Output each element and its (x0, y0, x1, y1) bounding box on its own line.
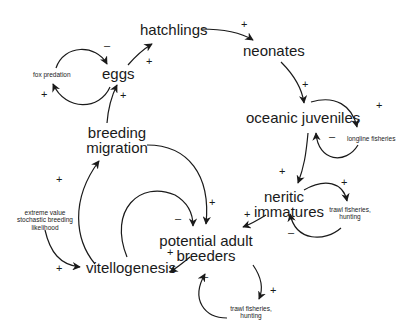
arrow-eggs-to-fox (53, 84, 110, 105)
trawl-adult-line2: hunting (226, 312, 276, 319)
arrow-oceanic-to-neritic (298, 133, 308, 183)
causal-loop-diagram: eggs hatchlings neonates oceanic juvenil… (0, 0, 410, 331)
sign-breeders-to-vitello: + (167, 246, 173, 258)
node-migration-line1: breeding (84, 125, 150, 140)
arrow-neonates-to-oceanic (281, 62, 304, 103)
trawl-adult-line1: trawl fisheries, (226, 305, 276, 312)
node-neritic-immatures: neritic immatures (254, 189, 314, 219)
sign-extreme-to-vitello: + (56, 262, 62, 274)
node-neonates: neonates (243, 43, 305, 58)
node-oceanic-juveniles: oceanic juveniles (246, 110, 360, 125)
sign-neonates-to-oceanic: + (302, 78, 308, 90)
node-breeders-line1: potential adult (146, 233, 266, 248)
node-neritic-line2: immatures (254, 204, 314, 219)
arrow-fox-to-eggs (56, 49, 107, 68)
node-trawl-adult: trawl fisheries, hunting (226, 305, 276, 320)
sign-vitello-to-breeders: – (175, 212, 181, 224)
sign-longline-to-oceanic: – (329, 130, 335, 142)
sign-breeders-to-trawl: + (270, 284, 276, 296)
trawl-neritic-line1: trawl fisheries, (325, 206, 375, 213)
node-eggs: eggs (102, 66, 135, 81)
arrow-vitello-to-migration (79, 161, 99, 264)
arrow-extreme-to-vitello (45, 230, 80, 267)
sign-neritic-to-trawl: + (341, 176, 347, 188)
arrow-breeders-to-trawl (253, 265, 261, 299)
node-longline-fisheries: longline fisheries (347, 135, 395, 142)
sign-oceanic-to-longline: + (376, 99, 382, 111)
sign-oceanic-to-neritic: + (279, 165, 285, 177)
node-vitellogenesis: vitellogenesis (86, 260, 176, 275)
sign-neritic-to-breeders: + (244, 208, 250, 220)
trawl-neritic-line2: hunting (325, 213, 375, 220)
sign-hatchlings-to-neonates: + (241, 18, 247, 30)
sign-eggs-to-fox: + (41, 88, 47, 100)
node-extreme-value: extreme value stochastic breeding likeli… (14, 209, 76, 231)
node-migration-line2: migration (84, 140, 150, 155)
extreme-line2: stochastic breeding (14, 216, 76, 223)
extreme-line1: extreme value (14, 209, 76, 216)
sign-trawl-to-neritic: – (288, 226, 294, 238)
node-trawl-neritic: trawl fisheries, hunting (325, 206, 375, 221)
node-breeding-migration: breeding migration (84, 125, 150, 155)
node-hatchlings: hatchlings (140, 22, 208, 37)
sign-migration-to-eggs: + (120, 89, 126, 101)
arrow-hatchlings-to-neonates (201, 29, 253, 40)
extreme-line3: likelihood (14, 224, 76, 231)
sign-migration-to-breeders: + (209, 196, 215, 208)
sign-fox-to-eggs: – (104, 39, 110, 51)
sign-eggs-to-hatchlings: + (146, 55, 152, 67)
node-neritic-line1: neritic (254, 189, 314, 204)
node-fox-predation: fox predation (33, 71, 71, 78)
sign-trawl-to-breeders: – (202, 270, 208, 282)
sign-vitello-to-migration: + (56, 173, 62, 185)
